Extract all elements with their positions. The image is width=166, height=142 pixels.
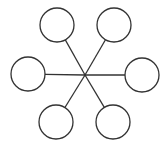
edge-top-left <box>65 40 85 75</box>
hub-point <box>84 74 86 76</box>
node-right <box>125 58 159 92</box>
diagram-canvas <box>0 0 166 142</box>
edge-bottom-left <box>65 75 85 108</box>
node-bottom-right <box>96 105 130 139</box>
star-diagram <box>0 0 166 142</box>
node-bottom-left <box>39 105 73 139</box>
nodes-group <box>11 8 159 139</box>
edges-group <box>45 40 125 108</box>
edge-bottom-right <box>85 75 104 107</box>
node-top-right <box>97 8 131 42</box>
edge-left <box>45 74 85 75</box>
edge-top-right <box>85 40 105 75</box>
node-left <box>11 57 45 91</box>
node-top-left <box>40 8 74 42</box>
